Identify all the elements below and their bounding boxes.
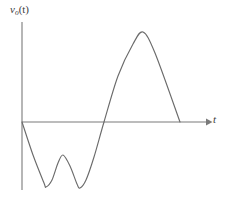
x-axis-arrow-icon [206, 119, 213, 126]
t-axis-label: t [213, 114, 216, 125]
plot-canvas [0, 0, 229, 197]
y-axis-label-arg: (t) [19, 3, 29, 15]
waveform-figure: vo(t) t [0, 0, 229, 197]
y-axis-label: vo(t) [10, 4, 29, 16]
waveform-curve [22, 32, 180, 188]
